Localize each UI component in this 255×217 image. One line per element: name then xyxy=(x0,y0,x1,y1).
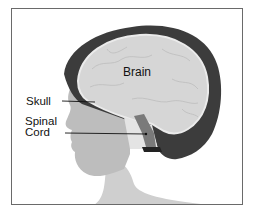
brain-label: Brain xyxy=(123,66,151,78)
spinal-cord-lower xyxy=(142,147,162,152)
diagram-frame: Brain Skull Spinal Cord xyxy=(11,8,243,205)
spinal-cord-label-line2: Cord xyxy=(25,126,50,138)
head-illustration xyxy=(12,9,243,205)
skull-label: Skull xyxy=(26,95,51,107)
